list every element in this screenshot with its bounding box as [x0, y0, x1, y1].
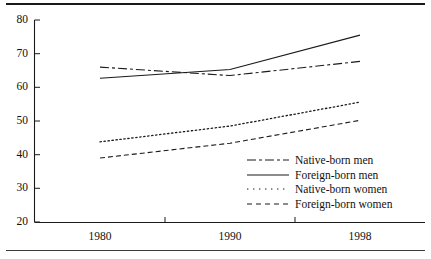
- y-tick-label-70: 70: [6, 48, 28, 60]
- x-tick-label-1998: 1998: [330, 231, 390, 243]
- legend-label-native-born-men: Native-born men: [290, 154, 373, 166]
- legend-swatch-native-born-men: [246, 154, 290, 166]
- legend-item-native-born-men: Native-born men: [246, 153, 421, 168]
- y-tick-label-30: 30: [6, 182, 28, 194]
- legend-item-foreign-born-women: Foreign-born women: [246, 197, 421, 212]
- y-tick-label-20: 20: [6, 216, 28, 228]
- y-tick-label-40: 40: [6, 149, 28, 161]
- legend-swatch-native-born-women: [246, 183, 290, 195]
- y-axis-ticks: [35, 20, 41, 222]
- x-tick-label-1980: 1980: [70, 231, 130, 243]
- legend-item-foreign-born-men: Foreign-born men: [246, 168, 421, 183]
- series-line-native-born-women: [100, 102, 360, 142]
- series-line-foreign-born-men: [100, 35, 360, 78]
- x-tick-label-1990: 1990: [200, 231, 260, 243]
- figure-container: 80 70 60 50 40 30 20 1980 1990 1998 Nati…: [0, 0, 431, 259]
- legend-label-foreign-born-women: Foreign-born women: [290, 198, 392, 210]
- legend-swatch-foreign-born-women: [246, 198, 290, 210]
- series-line-native-born-men: [100, 61, 360, 75]
- legend-label-native-born-women: Native-born women: [290, 183, 387, 195]
- y-tick-label-60: 60: [6, 81, 28, 93]
- line-chart-plot: [0, 0, 431, 259]
- y-tick-label-80: 80: [6, 14, 28, 26]
- data-series-group: [100, 35, 360, 158]
- legend-label-foreign-born-men: Foreign-born men: [290, 169, 378, 181]
- legend-swatch-foreign-born-men: [246, 169, 290, 181]
- x-axis-ticks: [165, 217, 295, 223]
- legend-item-native-born-women: Native-born women: [246, 182, 421, 197]
- chart-legend: Native-born men Foreign-born men Native-…: [246, 153, 421, 211]
- y-tick-label-50: 50: [6, 115, 28, 127]
